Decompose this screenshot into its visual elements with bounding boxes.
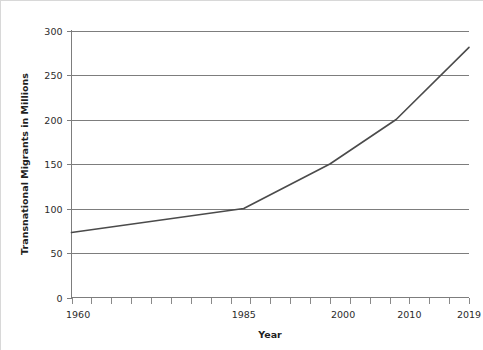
y-tick-label: 300 <box>44 26 62 37</box>
chart-canvas: 050100150200250300 19601985200020102019 … <box>1 1 483 350</box>
y-tick-label: 150 <box>44 159 62 170</box>
x-tick-label: 2000 <box>331 309 355 320</box>
x-tick-label: 2019 <box>457 309 481 320</box>
y-axis-title: Transnational Migrants in Millions <box>19 73 30 255</box>
y-tick-label: 0 <box>56 293 62 304</box>
y-tick-label: 100 <box>44 204 62 215</box>
x-tick-label: 1960 <box>66 309 90 320</box>
x-tick-label: 1985 <box>232 309 256 320</box>
y-tick-label: 50 <box>50 248 62 259</box>
y-tick-label: 200 <box>44 115 62 126</box>
y-tick-label: 250 <box>44 70 62 81</box>
x-tick-label: 2010 <box>397 309 421 320</box>
line-chart: 050100150200250300 19601985200020102019 … <box>0 0 483 350</box>
x-axis-title: Year <box>257 329 282 340</box>
